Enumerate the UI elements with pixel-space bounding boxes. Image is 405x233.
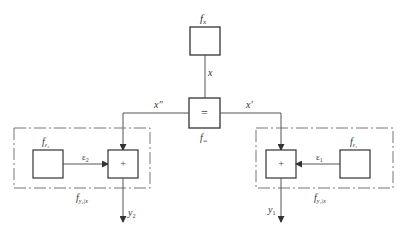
- left-frame-label: fy₂|x: [76, 192, 88, 204]
- right-noise-node: [340, 150, 370, 178]
- node-f-eq-label: f=: [200, 132, 208, 145]
- edge-x-double-prime: [123, 113, 189, 150]
- left-noise-edge-label: ε2: [82, 152, 89, 163]
- right-sum-symbol: +: [278, 158, 284, 169]
- right-output-label: y1: [267, 204, 275, 216]
- right-noise-node-label: fε₁: [350, 136, 357, 148]
- factor-graph: fx x = f= x″ x′ fε₂ ε2 + fy₂|x y2 + ε1 f…: [0, 0, 405, 233]
- edge-x-prime-label: x′: [245, 99, 253, 110]
- equal-symbol: =: [201, 106, 208, 120]
- right-group: + ε1 fε₁ fy₁|x y1: [256, 128, 393, 222]
- left-group: fε₂ ε2 + fy₂|x y2: [14, 128, 150, 222]
- node-f-x-label: fx: [200, 12, 207, 26]
- edge-x-label: x: [207, 67, 213, 78]
- right-frame-label: fy₁|x: [314, 192, 326, 204]
- edge-x-double-prime-label: x″: [153, 99, 163, 110]
- left-sum-symbol: +: [120, 158, 126, 169]
- left-noise-node: [33, 150, 63, 178]
- node-f-x: fx: [190, 12, 220, 55]
- node-equality: = f=: [189, 98, 220, 145]
- edge-x-prime: [220, 113, 281, 150]
- left-noise-node-label: fε₂: [42, 136, 49, 148]
- left-output-label: y2: [127, 207, 135, 219]
- right-noise-edge-label: ε1: [316, 152, 323, 163]
